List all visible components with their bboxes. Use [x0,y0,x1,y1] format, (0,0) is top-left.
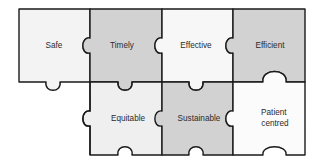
piece-label-effective: Effective [180,41,212,50]
piece-label-sustainable: Sustainable [178,114,221,123]
jigsaw-diagram: Safe Timely Effective Efficient Equitabl… [0,0,319,165]
piece-label-efficient: Efficient [256,41,286,50]
piece-label-safe: Safe [46,41,63,50]
piece-label-patient-line1: Patient [261,108,287,117]
piece-label-patient-line2: centred [261,119,289,128]
piece-label-timely: Timely [110,41,135,50]
diagram-canvas: Safe Timely Effective Efficient Equitabl… [0,0,319,165]
piece-label-equitable: Equitable [111,114,146,123]
